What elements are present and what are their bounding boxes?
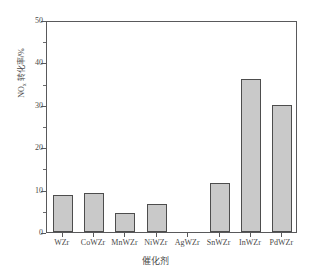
x-tick-inwzr [250, 233, 251, 237]
y-minor-tick-45 [43, 42, 46, 43]
x-tick-wzr [62, 233, 63, 237]
x-tick-cowzr [93, 233, 94, 237]
clipped-caption-strip [0, 0, 311, 12]
y-axis-title-main: NO [17, 86, 26, 98]
x-tick-agwzr [187, 233, 188, 237]
x-tick-snwzr [219, 233, 220, 237]
y-minor-tick-35 [43, 85, 46, 86]
x-tick-label-wzr: WZr [46, 238, 77, 248]
bar-mnwzr [115, 213, 135, 232]
bar-pdwzr [272, 105, 292, 232]
y-tick-label-10: 10 [19, 187, 43, 195]
y-tick-label-50: 50 [19, 17, 43, 25]
x-tick-label-agwzr: AgWZr [172, 238, 203, 248]
y-minor-tick-25 [43, 127, 46, 128]
bar-snwzr [210, 183, 230, 232]
x-tick-label-snwzr: SnWZr [203, 238, 234, 248]
y-axis-title-subscript: x [21, 83, 27, 86]
x-tick-label-niwzr: NiWZr [140, 238, 171, 248]
x-axis-title: 催化剂 [0, 256, 311, 267]
y-tick-label-30: 30 [19, 102, 43, 110]
y-minor-tick-5 [43, 212, 46, 213]
y-tick-label-20: 20 [19, 144, 43, 152]
bar-wzr [53, 195, 73, 232]
bar-cowzr [84, 193, 104, 232]
x-tick-label-cowzr: CoWZr [77, 238, 108, 248]
bar-inwzr [241, 79, 261, 232]
y-tick-label-40: 40 [19, 59, 43, 67]
y-tick-label-0: 0 [19, 229, 43, 237]
bar-niwzr [147, 204, 167, 232]
x-tick-pdwzr [281, 233, 282, 237]
chart-figure: NOx 转化率/% 01020304050WZrCoWZrMnWZrNiWZrA… [0, 0, 311, 280]
y-minor-tick-15 [43, 169, 46, 170]
x-tick-niwzr [156, 233, 157, 237]
bars-container [47, 22, 296, 232]
x-tick-label-mnwzr: MnWZr [109, 238, 140, 248]
x-tick-label-inwzr: InWZr [234, 238, 265, 248]
x-tick-label-pdwzr: PdWZr [266, 238, 297, 248]
plot-area [46, 21, 297, 233]
x-tick-mnwzr [124, 233, 125, 237]
